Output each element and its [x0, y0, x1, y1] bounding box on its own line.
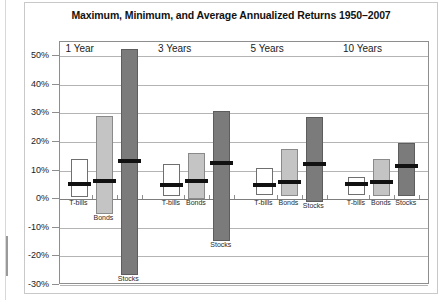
x-axis-minor-tick — [117, 195, 118, 199]
y-axis-tick — [52, 255, 59, 256]
group-title-3-years: 3 Years — [158, 43, 191, 54]
bar-label-t-bills: T-bills — [347, 199, 365, 206]
average-marker-stocks — [395, 164, 418, 168]
average-marker-stocks — [210, 161, 233, 165]
range-bar-t-bills — [256, 168, 273, 195]
y-axis-tick-label: 20% — [31, 136, 49, 146]
bar-label-bonds: Bonds — [371, 199, 391, 206]
y-axis-tick-label: -10% — [28, 222, 49, 232]
bar-label-t-bills: T-bills — [162, 199, 180, 206]
range-bar-bonds — [281, 149, 298, 196]
y-axis-tick — [52, 112, 59, 113]
gridline — [60, 142, 428, 143]
y-axis-tick-label: 0% — [36, 193, 49, 203]
bar-label-stocks: Stocks — [118, 275, 139, 282]
range-bar-bonds — [188, 153, 205, 199]
average-marker-t-bills — [253, 183, 276, 187]
gridline — [60, 228, 428, 229]
bar-label-bonds: Bonds — [278, 199, 298, 206]
bar-label-stocks: Stocks — [303, 202, 324, 209]
bar-label-t-bills: T-bills — [254, 199, 272, 206]
range-bar-stocks — [213, 111, 230, 241]
group-title-5-years: 5 Years — [250, 43, 283, 54]
group-title-1-year: 1 Year — [65, 43, 93, 54]
x-axis-minor-tick — [419, 195, 420, 199]
bar-label-stocks: Stocks — [210, 241, 231, 248]
average-marker-stocks — [118, 159, 141, 163]
y-axis-tick — [52, 170, 59, 171]
bar-label-t-bills: T-bills — [69, 199, 87, 206]
y-axis-tick — [52, 55, 59, 56]
average-marker-bonds — [185, 179, 208, 183]
y-axis-tick — [52, 141, 59, 142]
average-marker-t-bills — [68, 182, 91, 186]
range-bar-stocks — [398, 143, 415, 195]
group-title-10-years: 10 Years — [343, 43, 382, 54]
gridline — [60, 56, 428, 57]
gridline — [60, 113, 428, 114]
x-axis-minor-tick — [234, 195, 235, 199]
y-axis-tick-label: 10% — [31, 165, 49, 175]
bar-label-bonds: Bonds — [186, 199, 206, 206]
y-axis-tick — [52, 84, 59, 85]
average-marker-bonds — [93, 179, 116, 183]
average-marker-t-bills — [160, 183, 183, 187]
range-bar-bonds — [96, 116, 113, 214]
y-axis-tick-label: 30% — [31, 107, 49, 117]
average-marker-t-bills — [345, 182, 368, 186]
average-marker-bonds — [278, 180, 301, 184]
average-marker-bonds — [370, 180, 393, 184]
y-axis-tick-label: 40% — [31, 79, 49, 89]
y-axis-tick-label: -30% — [28, 279, 49, 289]
average-marker-stocks — [303, 162, 326, 166]
x-axis-minor-tick — [92, 195, 93, 199]
x-axis-minor-tick — [142, 195, 143, 199]
y-axis-tick — [52, 284, 59, 285]
chart-figure: Maximum, Minimum, and Average Annualized… — [0, 0, 440, 300]
range-bar-bonds — [373, 159, 390, 196]
bar-label-stocks: Stocks — [395, 199, 416, 206]
x-axis-minor-tick — [302, 195, 303, 199]
range-bar-t-bills — [71, 159, 88, 196]
x-axis-minor-tick — [327, 195, 328, 199]
gridline — [60, 85, 428, 86]
bar-label-bonds: Bonds — [93, 214, 113, 221]
range-bar-t-bills — [163, 164, 180, 196]
y-axis-tick-label: 50% — [31, 50, 49, 60]
y-axis-tick — [52, 227, 59, 228]
chart-title: Maximum, Minimum, and Average Annualized… — [24, 9, 438, 21]
y-axis-tick-label: -20% — [28, 250, 49, 260]
y-axis-labels: 50%40%30%20%10%0%-10%-20%-30% — [0, 41, 52, 284]
plot-area — [59, 41, 429, 284]
gridline — [60, 285, 428, 286]
range-bar-stocks — [306, 117, 323, 202]
y-axis-tick — [52, 198, 59, 199]
gridline — [60, 256, 428, 257]
x-axis-minor-tick — [209, 195, 210, 199]
